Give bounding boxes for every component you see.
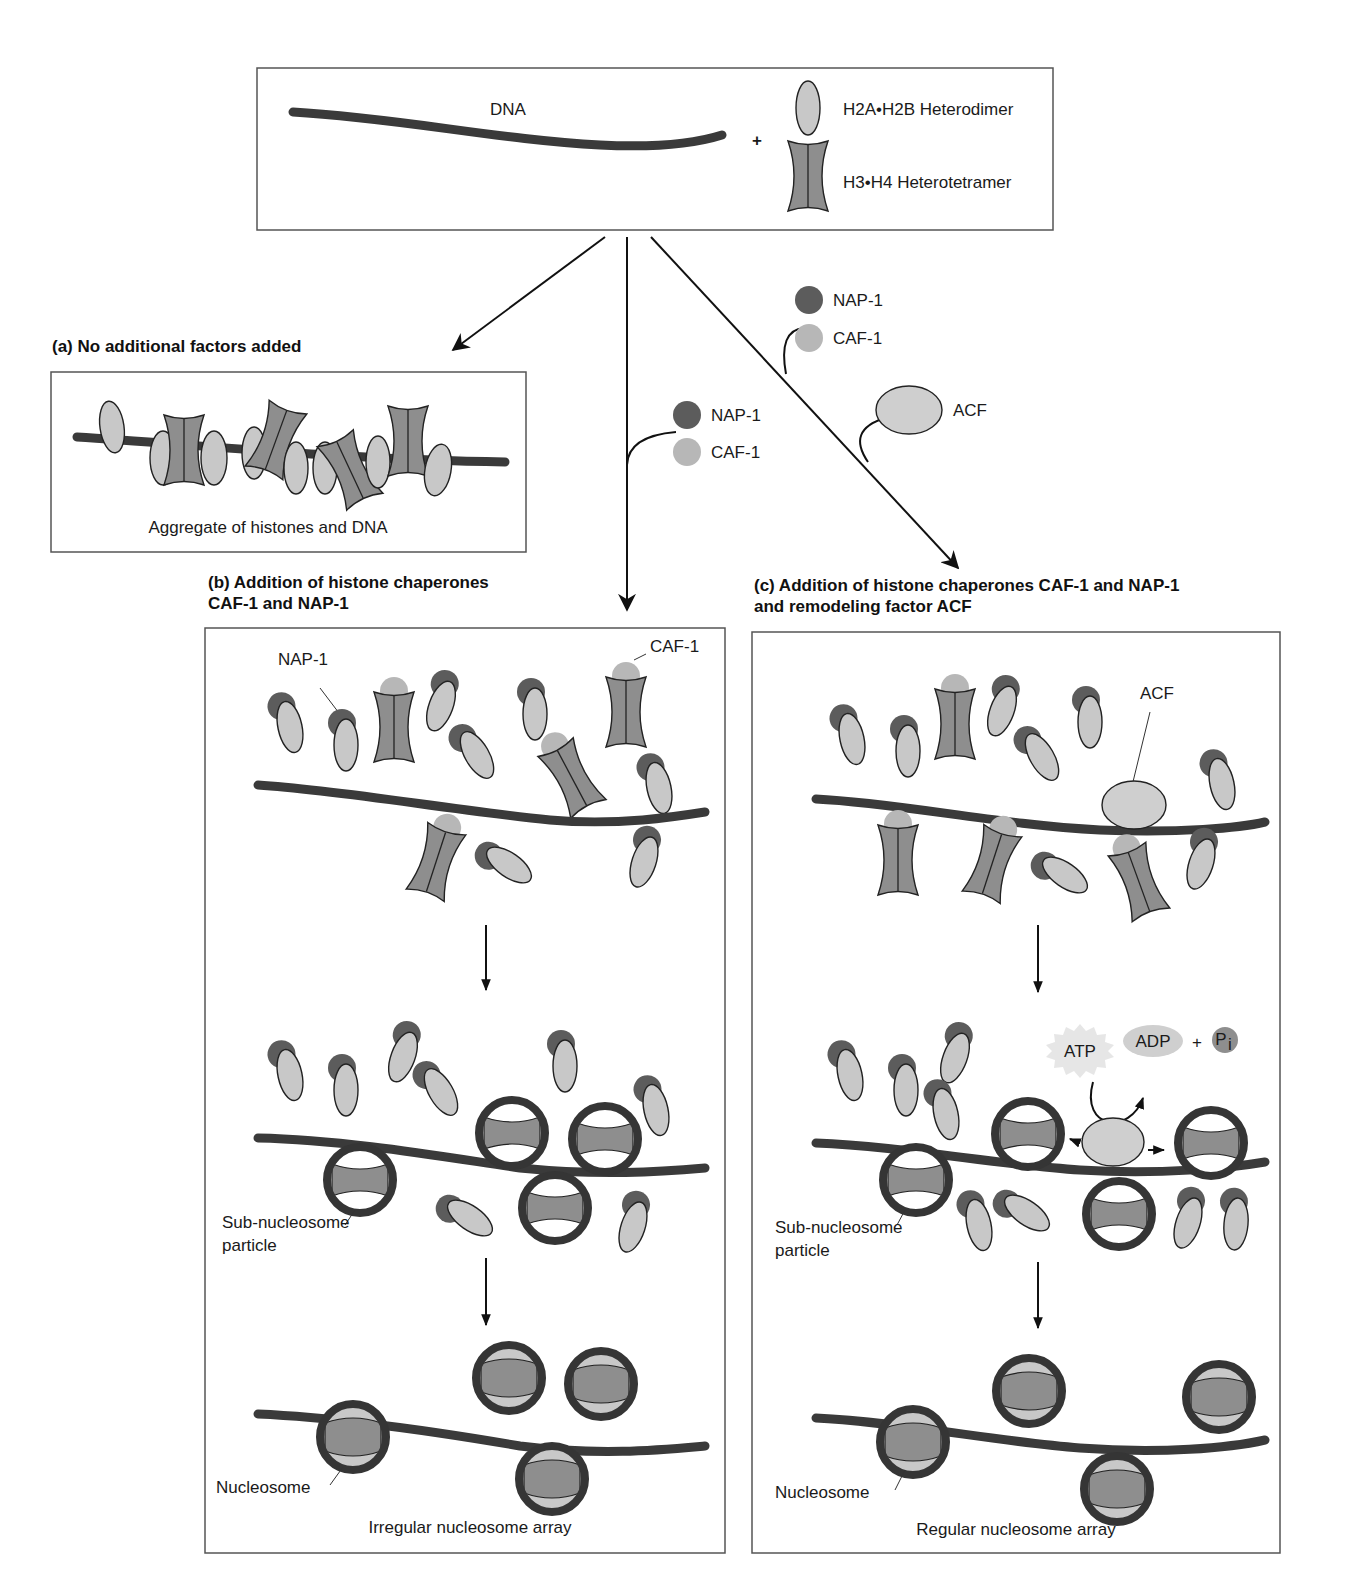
caf1-label: CAF-1 xyxy=(711,443,760,462)
panel-c-title-line2: and remodeling factor ACF xyxy=(754,597,972,616)
plus-sign: + xyxy=(752,131,762,150)
h3-h4-label: H3•H4 Heterotetramer xyxy=(843,173,1012,192)
nap1-icon xyxy=(673,401,701,429)
svg-text:i: i xyxy=(1228,1035,1232,1054)
sub-nucleosome-label-line1: Sub-nucleosome xyxy=(775,1218,903,1237)
nucleosome-assembly-diagram: DNA + H2A•H2B Heterodimer H3•H4 Heterote… xyxy=(0,0,1349,1594)
acf-icon xyxy=(1102,781,1166,829)
caf1-icon xyxy=(673,438,701,466)
nap1-callout: NAP-1 xyxy=(278,650,328,669)
nucleosome-label: Nucleosome xyxy=(775,1483,870,1502)
panel-b: (b) Addition of histone chaperones CAF-1… xyxy=(205,573,725,1553)
acf-label: ACF xyxy=(953,401,987,420)
h2a-h2b-label: H2A•H2B Heterodimer xyxy=(843,100,1014,119)
caf1-icon xyxy=(795,324,823,352)
arrow-to-panel-a xyxy=(453,237,605,350)
nucleosome xyxy=(476,1345,542,1411)
panel-b-caption: Irregular nucleosome array xyxy=(368,1518,572,1537)
sub-nucleosome-label-line2: particle xyxy=(222,1236,277,1255)
sub-nucleosome-label-line1: Sub-nucleosome xyxy=(222,1213,350,1232)
caf1-label: CAF-1 xyxy=(833,329,882,348)
panel-c: (c) Addition of histone chaperones CAF-1… xyxy=(752,576,1280,1553)
svg-text:P: P xyxy=(1215,1030,1226,1049)
panel-c-title-line1: (c) Addition of histone chaperones CAF-1… xyxy=(754,576,1179,595)
nap1-label: NAP-1 xyxy=(833,291,883,310)
panel-a: (a) No additional factors added Aggregat… xyxy=(51,337,526,552)
atp-label: ATP xyxy=(1064,1042,1096,1061)
h3-h4-heterotetramer-icon xyxy=(788,141,828,211)
dna-label: DNA xyxy=(490,100,527,119)
sub-nucleosome-label-line2: particle xyxy=(775,1241,830,1260)
branch-c-factors: NAP-1 CAF-1 ACF xyxy=(784,286,987,462)
panel-c-caption: Regular nucleosome array xyxy=(916,1520,1116,1539)
plus-sign: + xyxy=(1192,1033,1202,1052)
acf-icon xyxy=(1082,1118,1144,1166)
acf-callout: ACF xyxy=(1140,684,1174,703)
components-legend-box: DNA + H2A•H2B Heterodimer H3•H4 Heterote… xyxy=(257,68,1053,230)
branch-b-factors: NAP-1 CAF-1 xyxy=(627,401,761,466)
sub-nucleosome-particle xyxy=(883,1147,949,1213)
adp-ellipse: ADP xyxy=(1123,1025,1183,1057)
adp-label: ADP xyxy=(1136,1032,1171,1051)
nap1-label: NAP-1 xyxy=(711,406,761,425)
h2a-h2b-heterodimer-icon xyxy=(796,81,820,135)
caf1-callout: CAF-1 xyxy=(650,637,699,656)
nap1-icon xyxy=(795,286,823,314)
nucleosome xyxy=(880,1409,946,1475)
panel-b-title-line1: (b) Addition of histone chaperones xyxy=(208,573,489,592)
panel-a-caption: Aggregate of histones and DNA xyxy=(148,518,388,537)
acf-icon xyxy=(876,386,942,434)
nucleosome-label: Nucleosome xyxy=(216,1478,311,1497)
sub-nucleosome-particle xyxy=(479,1100,545,1166)
panel-b-title-line2: CAF-1 and NAP-1 xyxy=(208,594,349,613)
panel-a-title: (a) No additional factors added xyxy=(52,337,301,356)
